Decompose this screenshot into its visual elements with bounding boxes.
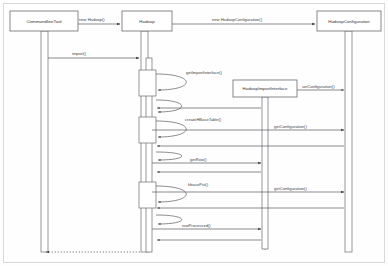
activation-getimportinterface [139,70,156,96]
message-label-getconfiguration-2: getConfiguration() [274,186,307,191]
message-label-import: import() [72,51,86,56]
return-messages [157,108,344,240]
lifelines [44,31,349,252]
message-label-hbaseput: hbasePut() [188,182,208,187]
message-label-new-hadoop: new Hadoop() [79,17,105,22]
message-label-getrow: getRow() [190,157,207,162]
participant-label-hconf[interactable]: HadoopConfiguration [317,11,381,31]
activation-hconf [345,31,352,252]
participant-label-hadoop[interactable]: Hadoop [122,11,172,31]
selfloop-extra-3 [156,215,182,224]
self-call-activations [139,70,156,208]
self-call-loops [156,74,186,224]
selfloop-hbaseput [156,186,186,202]
message-label-getconfiguration-1: getConfiguration() [274,124,307,129]
participant-label-hconf-text: HadoopConfiguration [328,19,370,24]
call-messages [48,58,344,229]
activation-hbaseput [139,182,156,208]
participant-label-cli[interactable]: CommandlineTool [10,11,78,31]
sequence-diagram-canvas: CommandlineTool Hadoop HadoopConfigurati… [0,0,388,266]
activation-cli [41,31,48,252]
message-label-new-hadoopconfiguration: new HadoopConfiguration() [212,17,262,22]
selfloop-extra-1 [156,100,182,112]
participant-label-cli-text: CommandlineTool [26,19,61,24]
selfloop-getimportinterface [156,74,186,90]
message-label-rowprocessed: rowProcessed() [182,223,211,228]
activation-bars [41,31,352,252]
selfloop-createhbasetable [156,121,186,137]
message-label-getimportinterface: getImportInterface() [186,70,222,75]
selfloop-extra-2 [156,152,182,160]
participant-label-hadoop-text: Hadoop [139,19,154,24]
participant-label-himport[interactable]: HadoopImportInterface [233,80,297,97]
message-label-setconfiguration: setConfiguration() [302,84,335,89]
message-label-createhbasetable: createHBaseTable() [185,117,221,122]
participant-label-himport-text: HadoopImportInterface [243,86,288,91]
activation-himport [262,97,268,249]
